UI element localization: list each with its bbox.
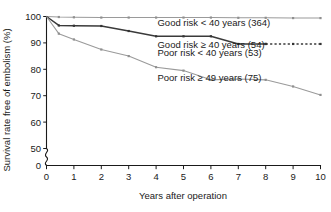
series-marker-1	[155, 35, 157, 37]
series-marker-0	[319, 17, 321, 19]
series-marker-0	[128, 16, 130, 18]
series-marker-3	[73, 38, 75, 40]
y-tick-label-100: 100	[25, 11, 41, 22]
x-axis-ticks	[47, 166, 321, 170]
survival-chart-figure: Survival rate free of embolism (%) 100 9…	[0, 0, 331, 212]
series-annotations: Good risk < 40 years (364) Good risk ≥ 4…	[157, 17, 270, 83]
series-marker-dashed-1	[319, 43, 321, 45]
series-marker-1	[58, 24, 60, 26]
y-axis-title: Survival rate free of embolism (%)	[1, 28, 12, 171]
x-tick-label-5: 5	[181, 171, 186, 182]
chart-canvas: Survival rate free of embolism (%) 100 9…	[0, 0, 331, 212]
annotation-good-risk-under-40: Good risk < 40 years (364)	[157, 17, 270, 28]
series-marker-3	[265, 79, 267, 81]
series-marker-3	[128, 55, 130, 57]
x-tick-label-7: 7	[236, 171, 241, 182]
y-tick-label-60: 60	[30, 117, 41, 128]
series-marker-dashed-1	[292, 43, 294, 45]
series-marker-0	[292, 17, 294, 19]
x-axis-tick-labels: 0 1 2 3 4 5 6 7 8 9 10	[44, 171, 326, 182]
annotation-poor-risk-over-49: Poor risk ≥ 49 years (75)	[157, 72, 261, 83]
x-axis-title: Years after operation	[139, 190, 227, 201]
x-tick-label-8: 8	[263, 171, 268, 182]
series-marker-dashed-1	[265, 43, 267, 45]
x-tick-label-2: 2	[99, 171, 104, 182]
series-marker-0	[73, 16, 75, 18]
y-axis-tick-labels: 100 90 80 70 60 50 0	[25, 11, 41, 171]
series-marker-1	[128, 30, 130, 32]
series-marker-1	[182, 35, 184, 37]
y-tick-label-0: 0	[36, 160, 41, 171]
series-marker-0	[100, 16, 102, 18]
series-marker-1	[73, 25, 75, 27]
y-tick-label-80: 80	[30, 64, 41, 75]
y-tick-label-90: 90	[30, 37, 41, 48]
annotation-poor-risk-under-40: Poor risk < 40 years (53)	[157, 47, 261, 58]
x-tick-label-0: 0	[44, 171, 49, 182]
series-marker-3	[319, 94, 321, 96]
series-marker-3	[292, 85, 294, 87]
series-marker-1	[210, 35, 212, 37]
x-tick-label-10: 10	[315, 171, 326, 182]
y-axis-break-icon	[45, 149, 47, 166]
x-tick-label-3: 3	[126, 171, 131, 182]
series-marker-1	[100, 25, 102, 27]
series-marker-0	[58, 16, 60, 18]
y-tick-label-50: 50	[30, 143, 41, 154]
series-marker-3	[58, 33, 60, 35]
x-tick-label-9: 9	[290, 171, 295, 182]
x-tick-label-1: 1	[71, 171, 76, 182]
series-marker-3	[155, 66, 157, 68]
x-tick-label-4: 4	[153, 171, 158, 182]
y-tick-label-70: 70	[30, 90, 41, 101]
series-marker-3	[100, 48, 102, 50]
x-tick-label-6: 6	[208, 171, 213, 182]
